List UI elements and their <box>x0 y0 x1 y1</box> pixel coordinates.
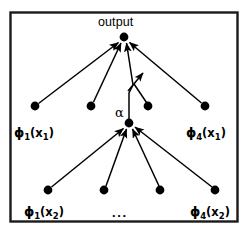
phi-glyph: ϕ <box>190 204 200 219</box>
phi-arg-close: ) <box>49 126 54 140</box>
node-phi3-x1[interactable] <box>144 102 153 111</box>
node-phi4-x2[interactable] <box>211 186 220 195</box>
label-phi1-x1: ϕ1(x1) <box>14 126 54 141</box>
phi-arg: (x <box>202 126 215 140</box>
node-phi4-x1[interactable] <box>201 102 210 111</box>
label-phi1-x2: ϕ1(x2) <box>24 205 64 220</box>
node-phi2-x2[interactable] <box>100 186 109 195</box>
ellipsis-label: ... <box>112 206 128 219</box>
phi-arg: (x <box>206 205 219 219</box>
phi-arg: (x <box>30 126 43 140</box>
network-diagram <box>0 0 248 233</box>
node-phi2-x1[interactable] <box>87 102 96 111</box>
node-phi1-x1[interactable] <box>31 102 40 111</box>
figure-container: output α ϕ1(x1) ϕ4(x1) ϕ1(x2) ϕ4(x2) ... <box>0 0 248 233</box>
alpha-label: α <box>115 106 124 119</box>
phi-glyph: ϕ <box>186 125 196 140</box>
node-phi1-x2[interactable] <box>44 186 53 195</box>
phi-arg: (x <box>40 205 53 219</box>
phi-glyph: ϕ <box>14 125 24 140</box>
phi-arg-close: ) <box>225 205 230 219</box>
phi-arg-close: ) <box>59 205 64 219</box>
node-phi3-x2[interactable] <box>156 186 165 195</box>
output-label: output <box>98 16 133 29</box>
label-phi4-x2: ϕ4(x2) <box>190 205 230 220</box>
node-alpha-hub[interactable] <box>125 119 134 128</box>
phi-arg-close: ) <box>221 126 226 140</box>
phi-glyph: ϕ <box>24 204 34 219</box>
label-phi4-x1: ϕ4(x1) <box>186 126 226 141</box>
node-output[interactable] <box>120 33 129 42</box>
